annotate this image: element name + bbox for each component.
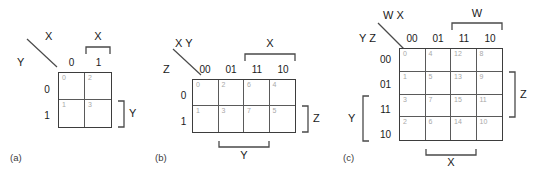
kmap-cell[interactable]: 2 [85,73,111,100]
left-bracket-y-c [362,95,370,142]
kmap-cell[interactable]: 3 [85,100,111,127]
corner-bottom-label-a: Y [17,57,24,68]
kmap-cell[interactable]: 2 [400,117,426,140]
cell-number: 7 [429,96,433,104]
right-bracket-z-c [508,71,516,118]
row-header-a-1: 1 [40,110,54,121]
row-header-c-1: 01 [375,79,396,90]
cell-number: 8 [480,50,484,58]
kmap-cell[interactable]: 3 [400,95,426,118]
right-bracket-y-a [117,100,125,128]
kmap-cell[interactable]: 6 [244,80,270,106]
row-header-b-1: 1 [177,116,190,127]
kmap-cell[interactable]: 13 [451,72,477,95]
top-bracket-label-x-b: X [244,38,296,49]
kmap-figure-c: W X Y Z W 00 01 11 10 00 01 11 10 0 4 12… [335,0,534,173]
kmap-grid-b: 0 2 6 4 1 3 7 5 [192,79,296,133]
kmap-cell[interactable]: 14 [451,117,477,140]
bottom-bracket-label-y-b: Y [218,150,270,161]
kmap-cell[interactable]: 9 [477,72,503,95]
cell-number: 12 [454,50,462,58]
cell-number: 9 [480,73,484,81]
corner-bottom-label-c: Y Z [359,33,376,44]
right-bracket-label-z-c: Z [520,89,527,100]
right-bracket-z-b [301,105,309,133]
kmap-cell[interactable]: 8 [477,49,503,72]
cell-number: 0 [196,81,200,89]
kmap-cell[interactable]: 1 [193,106,219,132]
kmap-cell[interactable]: 1 [59,100,85,127]
top-bracket-x-a [85,46,111,54]
kmap-cell[interactable]: 2 [219,80,245,106]
cell-number: 14 [454,118,462,126]
col-header-c-3: 10 [477,33,503,44]
col-header-a-1: 1 [85,57,112,68]
cell-number: 5 [273,107,277,115]
kmap-cell[interactable]: 0 [400,49,426,72]
col-header-b-0: 00 [192,64,218,75]
cell-number: 1 [196,107,200,115]
row-header-c-3: 10 [375,129,396,140]
kmap-cell[interactable]: 7 [244,106,270,132]
cell-number: 2 [403,118,407,126]
corner-top-label-b: X Y [175,38,193,49]
cell-number: 6 [429,118,433,126]
kmap-cell[interactable]: 3 [219,106,245,132]
cell-number: 11 [480,96,487,104]
kmap-cell[interactable]: 0 [59,73,85,100]
kmap-cell[interactable]: 4 [270,80,296,106]
kmap-cell[interactable]: 0 [193,80,219,106]
corner-diagonal-divider-a [26,38,58,68]
cell-number: 1 [62,101,66,109]
row-header-c-0: 00 [375,54,396,65]
kmap-cell[interactable]: 7 [426,95,452,118]
figure-caption-b: (b) [155,152,167,163]
right-bracket-label-z-b: Z [313,113,320,124]
right-bracket-label-y-a: Y [129,108,136,119]
kmap-cell[interactable]: 12 [451,49,477,72]
kmap-cell[interactable]: 1 [400,72,426,95]
bottom-bracket-y-b [218,140,270,148]
cell-number: 3 [403,96,407,104]
col-header-c-0: 00 [399,33,425,44]
cell-number: 10 [480,118,488,126]
kmap-grid-c: 0 4 12 8 1 5 13 9 3 7 15 11 2 6 14 [399,48,503,141]
col-header-c-2: 11 [451,33,477,44]
cell-number: 2 [88,74,92,82]
kmap-cell[interactable]: 15 [451,95,477,118]
col-header-b-1: 01 [218,64,244,75]
kmap-cell[interactable]: 11 [477,95,503,118]
bottom-bracket-label-x-c: X [425,157,477,168]
top-bracket-label-w-c: W [451,8,503,19]
col-header-a-0: 0 [58,57,85,68]
cell-number: 6 [247,81,251,89]
row-header-a-0: 0 [40,84,54,95]
figure-caption-a: (a) [10,152,22,163]
kmap-cell[interactable]: 5 [426,72,452,95]
kmap-figure-b: X Y Z X 00 01 11 10 0 1 0 2 6 4 1 3 7 5 … [150,0,335,173]
col-header-c-1: 01 [425,33,451,44]
kmap-figure-a: X Y X 0 1 0 1 0 2 1 3 Y (a) [0,0,150,173]
bottom-bracket-x-c [425,148,477,156]
col-header-b-3: 10 [270,64,296,75]
kmap-cell[interactable]: 5 [270,106,296,132]
kmap-cell[interactable]: 4 [426,49,452,72]
cell-number: 13 [454,73,462,81]
top-bracket-w-c [451,22,503,30]
cell-number: 0 [62,74,66,82]
cell-number: 1 [403,73,407,81]
cell-number: 15 [454,96,462,104]
cell-number: 5 [429,73,433,81]
top-bracket-x-b [244,53,296,61]
kmap-cell[interactable]: 10 [477,117,503,140]
kmap-cell[interactable]: 6 [426,117,452,140]
kmap-grid-a: 0 2 1 3 [58,72,112,128]
figure-caption-c: (c) [343,152,354,163]
corner-top-label-c: W X [383,10,404,21]
cell-number: 3 [88,101,92,109]
top-bracket-label-x-a: X [85,31,111,42]
cell-number: 2 [222,81,226,89]
corner-bottom-label-b: Z [163,64,170,75]
row-header-c-2: 11 [375,104,396,115]
cell-number: 4 [429,50,433,58]
